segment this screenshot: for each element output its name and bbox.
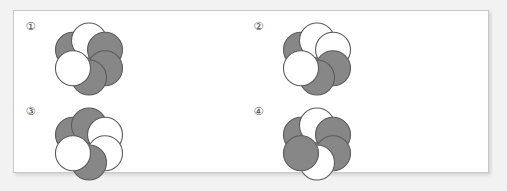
figure-panel: ①②③④ <box>13 10 489 173</box>
figure-3: ③ <box>23 104 183 184</box>
figure-2-label: ② <box>251 19 266 34</box>
figure-1-label: ① <box>23 19 38 34</box>
figure-2-circle-left <box>283 51 318 86</box>
figure-4-cluster <box>277 104 357 184</box>
figure-1-circle-left <box>55 51 90 86</box>
figure-4-label: ④ <box>251 104 266 119</box>
figure-3-label: ③ <box>23 104 38 119</box>
figure-2-cluster <box>277 19 357 99</box>
figure-1: ① <box>23 19 183 99</box>
figure-4: ④ <box>251 104 411 184</box>
figure-3-cluster <box>49 104 129 184</box>
screenshot-canvas: ①②③④ <box>0 0 507 191</box>
figure-2: ② <box>251 19 411 99</box>
figure-4-circle-left <box>283 136 318 171</box>
figure-3-circle-left <box>55 136 90 171</box>
figure-1-cluster <box>49 19 129 99</box>
